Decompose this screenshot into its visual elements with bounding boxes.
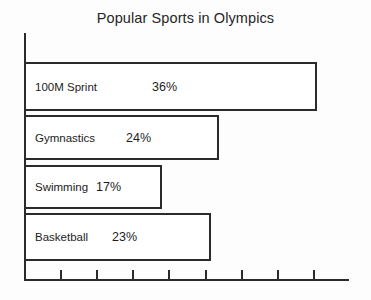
bar-value: 24% bbox=[126, 131, 151, 145]
x-axis-tick bbox=[132, 270, 134, 280]
bar-label: 100M Sprint bbox=[26, 81, 97, 93]
x-axis-tick bbox=[241, 270, 243, 280]
bar-basketball: Basketball 23% bbox=[24, 213, 211, 261]
x-axis-tick bbox=[96, 270, 98, 280]
x-axis-tick bbox=[205, 270, 207, 280]
x-axis-tick bbox=[277, 270, 279, 280]
bar-swimming: Swimming 17% bbox=[24, 165, 162, 209]
bar-label: Basketball bbox=[26, 231, 88, 243]
x-axis-tick bbox=[313, 270, 315, 280]
bar-value: 23% bbox=[112, 230, 137, 244]
bar-value: 17% bbox=[96, 180, 121, 194]
x-axis-tick bbox=[168, 270, 170, 280]
bar-chart: Popular Sports in Olympics 100M Sprint 3… bbox=[0, 0, 371, 300]
x-axis-tick bbox=[60, 270, 62, 280]
bar-gymnastics: Gymnastics 24% bbox=[24, 115, 219, 160]
bar-value: 36% bbox=[152, 80, 177, 94]
chart-title: Popular Sports in Olympics bbox=[0, 10, 371, 26]
bar-100m-sprint: 100M Sprint 36% bbox=[24, 62, 317, 111]
bar-label: Swimming bbox=[26, 181, 88, 193]
x-axis-line bbox=[24, 279, 349, 281]
bar-label: Gymnastics bbox=[26, 132, 95, 144]
